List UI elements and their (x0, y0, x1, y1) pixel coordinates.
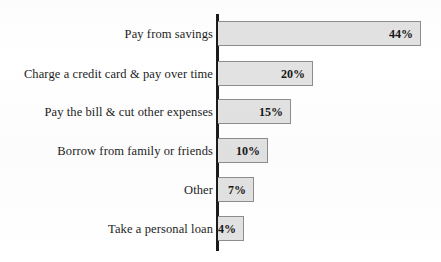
bar-track: 7% (218, 177, 254, 203)
bar-row: Charge a credit card & pay over time 20% (0, 61, 441, 87)
bar-row: Borrow from family or friends 10% (0, 138, 441, 164)
bar-category-label: Other (184, 177, 213, 203)
bar-row: Take a personal loan 4% (0, 216, 441, 242)
bar-rect[interactable]: 10% (218, 138, 268, 163)
bar-category-label: Charge a credit card & pay over time (24, 61, 213, 87)
bar-category-label: Borrow from family or friends (57, 138, 213, 164)
bar-row: Pay from savings 44% (0, 21, 441, 47)
bar-value-label: 4% (218, 217, 236, 242)
bar-value-label: 44% (389, 22, 413, 47)
bar-rect[interactable]: 44% (218, 21, 421, 46)
bar-row: Other 7% (0, 177, 441, 203)
bar-value-label: 10% (236, 139, 260, 164)
bar-value-label: 15% (259, 100, 283, 125)
bar-category-label: Pay from savings (125, 21, 213, 47)
bar-track: 4% (218, 216, 244, 242)
horizontal-bar-chart: Pay from savings 44% Charge a credit car… (0, 0, 441, 262)
bar-rect[interactable]: 7% (218, 177, 254, 202)
bar-track: 10% (218, 138, 268, 164)
bar-value-label: 20% (281, 62, 305, 87)
bar-rect[interactable]: 15% (218, 99, 291, 124)
bar-value-label: 7% (228, 178, 246, 203)
bar-track: 15% (218, 99, 291, 125)
bar-track: 44% (218, 21, 421, 47)
bar-category-label: Take a personal loan (108, 216, 213, 242)
bar-rect[interactable]: 20% (218, 61, 313, 86)
bar-rect[interactable]: 4% (218, 216, 244, 241)
bar-row: Pay the bill & cut other expenses 15% (0, 99, 441, 125)
bar-category-label: Pay the bill & cut other expenses (44, 99, 213, 125)
bar-track: 20% (218, 61, 313, 87)
